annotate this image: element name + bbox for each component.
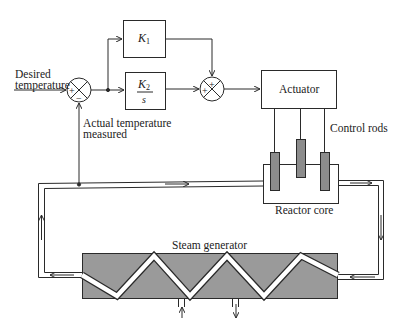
steam-outlet — [233, 299, 239, 318]
diagram-canvas — [0, 0, 402, 335]
sum2-plus-left: + — [202, 85, 208, 96]
k1-output-line — [166, 39, 212, 76]
sensor-point — [77, 183, 80, 186]
k1-label: K1 — [138, 33, 150, 47]
sum1-plus-sign: + — [69, 85, 75, 96]
sum1-minus-sign: − — [76, 93, 82, 104]
k1-gain-symbol: K — [138, 31, 146, 45]
actuator-label: Actuator — [279, 84, 319, 95]
sum2-plus-top: + — [209, 79, 215, 90]
control-rod-left — [271, 153, 280, 191]
feedback-label: Actual temperature measured — [83, 118, 171, 140]
k2-denominator: s — [142, 94, 146, 105]
input-label: Desired temperature — [15, 69, 70, 91]
k2-gain-symbol: K — [138, 77, 146, 91]
feedwater-inlet — [179, 299, 185, 318]
k2-subscript: 2 — [146, 83, 150, 92]
feedback-label-line2: measured — [83, 129, 171, 140]
input-label-line2: temperature — [15, 80, 70, 91]
control-rod-middle — [297, 140, 306, 178]
k2-numerator: K2 — [138, 79, 150, 93]
k1-input-line — [108, 39, 122, 90]
steam-generator-label: Steam generator — [172, 240, 247, 251]
control-rod-right — [321, 153, 330, 191]
reactor-core-label: Reactor core — [275, 205, 333, 216]
k1-subscript: 1 — [146, 37, 150, 46]
control-rods-label: Control rods — [330, 123, 388, 134]
